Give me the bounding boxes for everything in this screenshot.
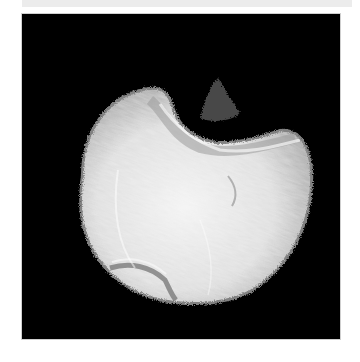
top-band — [22, 0, 352, 7]
dark-spike — [200, 78, 240, 121]
specimen-image — [22, 14, 340, 339]
specimen-graphic — [22, 14, 340, 339]
